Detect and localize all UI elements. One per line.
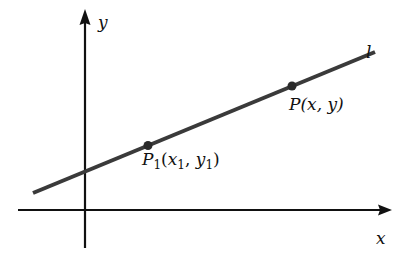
point-p [288,82,297,91]
y-axis [80,9,91,248]
y-axis-label: y [97,12,108,32]
x-axis-label: x [376,228,386,248]
point-p-label: P(x, y) [288,94,344,114]
point-p1-label: P1(x1, y1) [141,149,220,172]
x-axis-arrow-icon [378,205,392,216]
y-axis-arrow-icon [80,9,91,25]
coordinate-diagram: y x l P(x, y) P1(x1, y1) [0,0,410,266]
x-axis [18,205,392,216]
line-label: l [366,42,371,62]
